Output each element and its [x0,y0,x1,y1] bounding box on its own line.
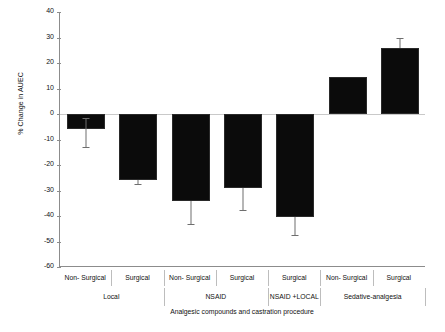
category-separator [216,270,217,286]
bar-slot [112,12,164,266]
category-label: Non- Surgical [59,268,111,288]
bar-slot [217,12,269,266]
category-label: Surgical [268,268,320,288]
bar-slot [374,12,426,266]
error-bar-cap [83,118,90,119]
group-axis-row: LocalNSAIDNSAID +LOCALSedative-analgesia [59,288,425,306]
category-label: Surgical [111,268,163,288]
error-bar-cap [396,38,403,39]
y-tick-label: -50 [44,237,54,244]
y-tick-label: -30 [44,186,54,193]
y-tick-label: 10 [46,84,54,91]
category-separator [164,270,165,286]
plot-area: 403020100-10-20-30-40-50-60 [59,12,425,267]
error-bar-cap [239,210,246,211]
bar [119,114,157,180]
bar-slot [165,12,217,266]
y-tick-label: -60 [44,262,54,269]
x-axis-title: Analgesic compounds and castration proce… [59,308,425,315]
y-tick-label: 30 [46,33,54,40]
y-tick-label: -20 [44,160,54,167]
error-bar-line [86,118,87,147]
y-tick-label: -40 [44,211,54,218]
bar-slot [269,12,321,266]
y-tick-label: 0 [50,109,54,116]
category-separator [320,270,321,286]
error-bar-cap [292,235,299,236]
bar-slot [321,12,373,266]
y-tick-label: 40 [46,7,54,14]
category-label: Non- Surgical [320,268,372,288]
bar [381,48,419,114]
category-label: Non- Surgical [164,268,216,288]
group-label: NSAID [164,288,269,306]
category-label: Surgical [216,268,268,288]
error-bar-line [242,188,243,210]
bar [329,77,367,114]
error-bar-cap [187,224,194,225]
bar [276,114,314,217]
group-label: Sedative-analgesia [320,288,425,306]
group-label: NSAID +LOCAL [268,288,320,306]
group-separator [425,288,426,306]
y-tick-label: 20 [46,58,54,65]
category-separator [268,270,269,286]
category-label: Surgical [373,268,425,288]
error-bar-line [295,217,296,235]
category-axis-row: Non- SurgicalSurgicalNon- SurgicalSurgic… [59,268,425,288]
error-bar-line [190,201,191,224]
bar [224,114,262,188]
error-bar-cap [135,184,142,185]
group-separator [164,288,165,306]
bar-slot [60,12,112,266]
category-separator [111,270,112,286]
chart-figure: % Change in AUEC 403020100-10-20-30-40-5… [0,0,445,332]
y-axis-title: % Change in AUEC [17,44,24,164]
error-bar-cap [83,147,90,148]
bar-series [60,12,425,266]
group-label: Local [59,288,164,306]
error-bar-line [399,38,400,48]
group-separator [268,288,269,306]
bar [172,114,210,201]
category-separator [373,270,374,286]
group-separator [320,288,321,306]
y-tick-label: -10 [44,135,54,142]
